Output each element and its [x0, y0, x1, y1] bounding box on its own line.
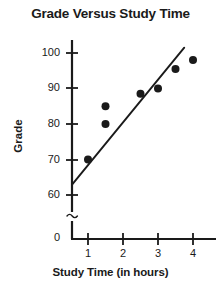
- data-point: [154, 85, 162, 93]
- y-axis-title: Grade: [12, 106, 24, 166]
- x-axis-title: Study Time (in hours): [0, 266, 221, 278]
- y-tick-label-0: 0: [26, 231, 60, 243]
- chart-container: Grade Versus Study Time: [0, 0, 221, 291]
- data-point: [172, 65, 180, 73]
- x-tick-label-4: 4: [183, 247, 203, 259]
- data-point: [102, 120, 110, 128]
- x-tick-label-1: 1: [78, 247, 98, 259]
- y-tick-label-100: 100: [26, 46, 60, 58]
- data-point: [137, 90, 145, 98]
- y-tick-label-60: 60: [26, 188, 60, 200]
- x-tick-label-2: 2: [113, 247, 133, 259]
- line-of-best-fit: [72, 48, 184, 185]
- y-axis-break-icon: [67, 214, 77, 217]
- scatter-points: [84, 56, 197, 163]
- data-point: [84, 156, 92, 164]
- y-tick-label-70: 70: [26, 153, 60, 165]
- data-point: [189, 56, 197, 64]
- y-tick-label-90: 90: [26, 81, 60, 93]
- data-point: [102, 102, 110, 110]
- y-tick-label-80: 80: [26, 117, 60, 129]
- x-tick-label-3: 3: [148, 247, 168, 259]
